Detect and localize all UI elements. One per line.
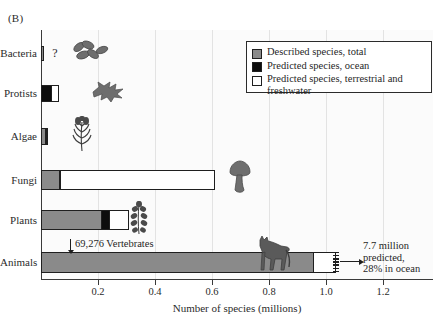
plant-icon [128,201,150,239]
bar-segment-predicted-species [60,170,215,190]
x-tick [383,280,384,285]
category-label-protists: Protists [0,87,37,99]
bacteria-icon [68,38,112,68]
horse-icon [253,234,293,276]
legend-label-predicted-terrestrial: Predicted species, terrestrial and fresh… [267,73,426,96]
seaweed-icon [69,116,95,156]
legend-label-described: Described species, total [267,46,366,58]
bar-segment-described-species [41,170,60,190]
bar-segment-predicted-species [109,210,129,230]
x-tick [98,280,99,285]
category-label-plants: Plants [0,214,37,226]
category-label-bacteria: Bacteria [0,47,37,59]
x-tick [155,280,156,285]
x-tick-label: 0.8 [263,286,276,297]
figure-panel-b: (B) 0.20.40.60.81.01.2 Number of species… [0,0,448,323]
bar-bacteria [41,46,44,61]
category-label-fungi: Fungi [0,174,37,186]
vertebrates-annotation: 69,276 Vertebrates [75,238,154,249]
animals-annotation-arrow [340,261,360,262]
amoeba-icon [89,79,127,107]
x-tick [212,280,213,285]
animals-annotation-line3: 28% in ocean [363,263,420,275]
legend-swatch-black [252,62,262,72]
y-axis-line [41,30,42,280]
bar-algae [41,128,50,145]
x-tick-label: 0.6 [205,286,218,297]
bar-protists [41,85,60,102]
gridline [212,30,213,279]
category-label-algae: Algae [0,130,37,142]
animals-annotation-line2: predicted, [363,252,420,264]
x-tick [326,280,327,285]
x-tick-label: 0.4 [148,286,161,297]
bacteria-unknown-marker: ? [52,46,57,61]
bar-segment-described-species [41,210,102,230]
legend-item-described: Described species, total [252,46,426,59]
x-tick-label: 0.2 [91,286,104,297]
legend-swatch-gray [252,49,262,59]
animals-annotation: 7.7 million predicted, 28% in ocean [363,240,420,275]
bar-fungi [41,170,217,190]
vertebrates-arrow [70,239,71,251]
legend-label-predicted-ocean: Predicted species, ocean [267,60,369,72]
panel-letter: (B) [8,12,23,24]
x-tick [269,280,270,285]
bar-segment-predicted-species [46,128,49,145]
bar-segment-described-species [41,46,44,61]
x-axis-line [41,279,433,280]
x-tick-label: 1.0 [320,286,333,297]
bar-plants [41,210,131,230]
category-label-animals: Animals [0,256,37,268]
animals-annotation-line1: 7.7 million [363,240,420,252]
bar-segment-predicted-species [51,85,60,102]
legend-item-predicted-ocean: Predicted species, ocean [252,60,426,73]
legend-item-predicted-terrestrial: Predicted species, terrestrial and fresh… [252,73,426,96]
torn-edge-marker [333,252,339,273]
legend-swatch-white [252,76,262,86]
mushroom-icon [227,160,253,198]
chart-legend: Described species, total Predicted speci… [246,41,432,93]
x-axis-label: Number of species (millions) [41,302,433,314]
x-tick-label: 1.2 [377,286,390,297]
gridline [155,30,156,279]
